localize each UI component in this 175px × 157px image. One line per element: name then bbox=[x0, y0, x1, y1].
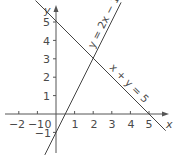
y-tick-label: 2 bbox=[43, 71, 50, 84]
x-tick-label: −2 bbox=[9, 118, 25, 131]
x-tick-label: 2 bbox=[91, 118, 98, 131]
y-tick-label: 5 bbox=[43, 16, 50, 29]
line2-label: x + y = 5 bbox=[108, 61, 152, 105]
coordinate-plane: −2 −1 0 1 2 3 4 5 5 4 3 2 1 −1 y x y = 2… bbox=[0, 0, 175, 157]
x-axis-arrow-icon bbox=[162, 112, 169, 117]
y-tick-label: 4 bbox=[43, 35, 50, 48]
x-tick-label: 5 bbox=[146, 118, 153, 131]
y-axis-arrow-icon bbox=[54, 5, 59, 12]
x-tick-label: 3 bbox=[109, 118, 116, 131]
y-tick-label: −1 bbox=[35, 127, 51, 140]
line1-label: y = 2x − 1 bbox=[85, 0, 121, 50]
x-axis-label: x bbox=[165, 118, 173, 131]
x-axis bbox=[5, 111, 169, 117]
x-tick-label: 1 bbox=[72, 118, 79, 131]
x-tick-label: 4 bbox=[128, 118, 135, 131]
y-axis bbox=[53, 5, 59, 153]
y-tick-label: 3 bbox=[43, 53, 50, 66]
y-tick-label: 1 bbox=[43, 90, 50, 103]
